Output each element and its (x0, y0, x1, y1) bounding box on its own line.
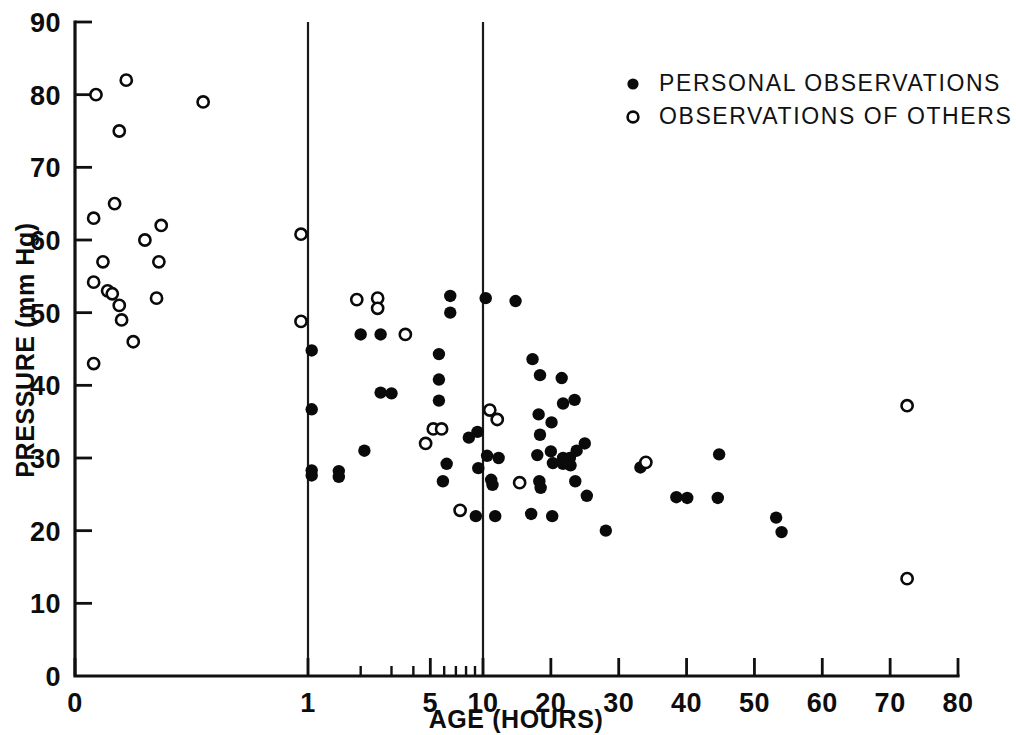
open-data-point (88, 358, 99, 369)
filled-data-point (480, 292, 492, 304)
open-data-point (351, 294, 362, 305)
filled-data-point (681, 492, 693, 504)
open-data-point (128, 336, 139, 347)
open-data-point (436, 423, 447, 434)
filled-data-point (712, 492, 724, 504)
open-data-point (902, 400, 913, 411)
open-data-point (198, 96, 209, 107)
open-data-point (295, 229, 306, 240)
open-data-point (116, 314, 127, 325)
open-data-point (640, 457, 651, 468)
filled-data-point (433, 394, 445, 406)
filled-data-point (568, 394, 580, 406)
open-data-point (90, 89, 101, 100)
filled-data-point (713, 448, 725, 460)
x-tick-label-70: 70 (875, 688, 906, 718)
filled-data-point (534, 482, 546, 494)
x-tick-label-1: 1 (300, 688, 316, 718)
open-data-point (114, 300, 125, 311)
open-data-point (400, 329, 411, 340)
filled-data-point (531, 449, 543, 461)
filled-data-point (600, 524, 612, 536)
x-axis-title: AGE (HOURS) (429, 705, 604, 733)
open-data-point (153, 256, 164, 267)
filled-data-point (534, 369, 546, 381)
series-1 (306, 290, 788, 539)
filled-data-point (472, 462, 484, 474)
x-tick-label-80: 80 (942, 688, 973, 718)
legend-label-1: PERSONAL OBSERVATIONS (659, 70, 1001, 96)
filled-data-point (770, 511, 782, 523)
legend-label-2: OBSERVATIONS OF OTHERS (659, 103, 1012, 129)
vertical-divider-lines (308, 22, 483, 676)
open-data-point (109, 198, 120, 209)
filled-data-point (433, 373, 445, 385)
filled-data-point (471, 426, 483, 438)
filled-data-point (534, 429, 546, 441)
open-data-point (295, 316, 306, 327)
y-tick-label-10: 10 (30, 589, 61, 619)
x-tick-label-60: 60 (807, 688, 838, 718)
filled-data-point (557, 397, 569, 409)
open-data-point (114, 125, 125, 136)
filled-data-point (564, 459, 576, 471)
open-data-point (121, 75, 132, 86)
legend-filled-circle-icon (627, 78, 638, 89)
y-tick-label-0: 0 (45, 662, 61, 692)
filled-data-point (358, 445, 370, 457)
filled-data-point (525, 508, 537, 520)
open-data-point (902, 573, 913, 584)
x-tick-label-50: 50 (739, 688, 770, 718)
open-data-point (492, 414, 503, 425)
filled-data-point (470, 510, 482, 522)
open-data-point (514, 477, 525, 488)
x-tick-label-40: 40 (671, 688, 702, 718)
open-data-point (107, 288, 118, 299)
filled-data-point (444, 306, 456, 318)
y-tick-label-70: 70 (30, 153, 61, 183)
filled-data-point (546, 510, 558, 522)
open-data-point (420, 438, 431, 449)
filled-data-point (569, 475, 581, 487)
filled-data-point (579, 437, 591, 449)
x-tick-label-0: 0 (67, 688, 83, 718)
filled-data-point (526, 353, 538, 365)
filled-data-point (306, 344, 318, 356)
open-data-point (372, 303, 383, 314)
data-points (88, 75, 913, 585)
filled-data-point (486, 479, 498, 491)
filled-data-point (437, 475, 449, 487)
y-tick-label-80: 80 (30, 81, 61, 111)
y-tick-label-20: 20 (30, 517, 61, 547)
scatter-plot-figure: 0151020304050607080 0102030405060708090 … (0, 0, 1016, 735)
open-data-point (139, 234, 150, 245)
filled-data-point (489, 510, 501, 522)
filled-data-point (581, 490, 593, 502)
filled-data-point (306, 469, 318, 481)
x-tick-label-30: 30 (603, 688, 634, 718)
filled-data-point (545, 445, 557, 457)
open-data-point (455, 505, 466, 516)
open-data-point (88, 277, 99, 288)
filled-data-point (440, 458, 452, 470)
legend-open-circle-icon (628, 112, 639, 123)
open-data-point (156, 220, 167, 231)
open-data-point (97, 256, 108, 267)
chart-legend: PERSONAL OBSERVATIONSOBSERVATIONS OF OTH… (627, 70, 1012, 129)
series-2 (88, 75, 913, 585)
y-axis-title: PRESSURE (mm Hg) (11, 222, 39, 477)
filled-data-point (354, 328, 366, 340)
filled-data-point (556, 372, 568, 384)
x-axis-ticks (75, 658, 958, 676)
chart-canvas: 0151020304050607080 0102030405060708090 … (0, 0, 1016, 735)
filled-data-point (492, 452, 504, 464)
filled-data-point (775, 526, 787, 538)
filled-data-point (333, 471, 345, 483)
filled-data-point (385, 387, 397, 399)
y-tick-label-90: 90 (30, 8, 61, 38)
filled-data-point (374, 328, 386, 340)
open-data-point (88, 213, 99, 224)
y-axis-ticks (75, 22, 92, 603)
filled-data-point (509, 295, 521, 307)
filled-data-point (444, 290, 456, 302)
